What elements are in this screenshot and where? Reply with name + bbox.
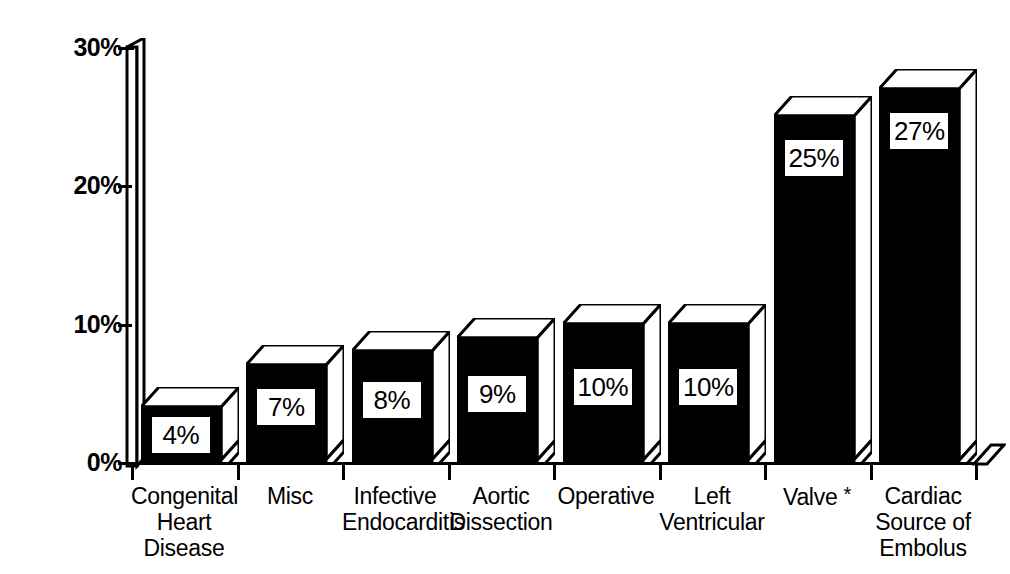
x-axis-category-label: Operative [553, 483, 659, 509]
x-axis-category-line: Aortic [448, 483, 554, 509]
bar-top-face [457, 318, 555, 338]
x-axis-category-label: InfectiveEndocarditis [342, 483, 448, 535]
bar-side-face [748, 304, 766, 460]
x-axis-category-label: Valve * [764, 483, 870, 510]
x-axis-category-line: Misc [237, 483, 343, 509]
bar-value-label: 9% [466, 374, 528, 414]
x-axis-category-line: Disease [131, 535, 237, 561]
bar-value-label: 25% [783, 138, 845, 178]
bar-value-label: 4% [150, 415, 212, 455]
bar-top-face [774, 96, 872, 116]
x-axis-category-line: Embolus [870, 535, 976, 561]
bar-value-label: 10% [572, 367, 634, 407]
x-axis-category-line: Heart [131, 509, 237, 535]
bar-side-face [537, 318, 555, 461]
bar-group[interactable]: 10% [668, 304, 766, 462]
x-axis-category-line: Valve * [764, 483, 870, 510]
y-axis-tick-mark [118, 47, 134, 50]
x-axis-category-label: LeftVentricular [659, 483, 765, 535]
bar-top-face [668, 304, 766, 324]
bar-value-label: 7% [255, 387, 317, 427]
x-axis-category-line: Dissection [448, 509, 554, 535]
x-axis-category-line: Cardiac [870, 483, 976, 509]
x-axis-category-line: Ventricular [659, 509, 765, 535]
bar-group[interactable]: 10% [563, 304, 661, 462]
bar-group[interactable]: 8% [352, 331, 450, 462]
plot-area: 4%CongenitalHeartDisease7%Misc8%Infectiv… [0, 0, 1010, 574]
baseline-end-foot [972, 443, 1006, 469]
bar-group[interactable]: 9% [457, 318, 555, 463]
bar-top-face [352, 331, 450, 351]
bar-value-label: 8% [361, 380, 423, 420]
footnote-asterisk: * [843, 483, 850, 505]
x-axis-category-label: Misc [237, 483, 343, 509]
bar-group[interactable]: 7% [246, 345, 344, 462]
x-axis-category-line: Operative [553, 483, 659, 509]
y-axis-tick-mark [118, 462, 132, 465]
bar-value-label: 10% [677, 367, 739, 407]
bar-group[interactable]: 27% [879, 69, 977, 463]
x-axis-category-label: AorticDissection [448, 483, 554, 535]
bar-side-face [432, 331, 450, 460]
y-axis-tick-mark [118, 324, 132, 327]
bar-chart: 0%10%20%30% 4%CongenitalHeartDisease7%Mi… [0, 0, 1010, 574]
bar-side-face [643, 304, 661, 460]
x-axis-category-line: Congenital [131, 483, 237, 509]
bar-top-face [141, 387, 239, 407]
x-axis-category-line: Source of [870, 509, 976, 535]
x-axis-category-line: Infective [342, 483, 448, 509]
x-axis-baseline [122, 462, 978, 465]
bar-top-face [563, 304, 661, 324]
bar-side-face [854, 96, 872, 460]
bar-group[interactable]: 25% [774, 96, 872, 462]
y-axis-tick-mark [118, 185, 132, 188]
bar-value-label: 27% [888, 111, 950, 151]
bar-top-face [246, 345, 344, 365]
x-axis-category-line: Left [659, 483, 765, 509]
bar-side-face [959, 69, 977, 461]
x-axis-category-line: Endocarditis [342, 509, 448, 535]
bar-group[interactable]: 4% [141, 387, 239, 462]
x-axis-category-label: CardiacSource ofEmbolus [870, 483, 976, 561]
bar-top-face [879, 69, 977, 89]
x-axis-category-label: CongenitalHeartDisease [131, 483, 237, 561]
